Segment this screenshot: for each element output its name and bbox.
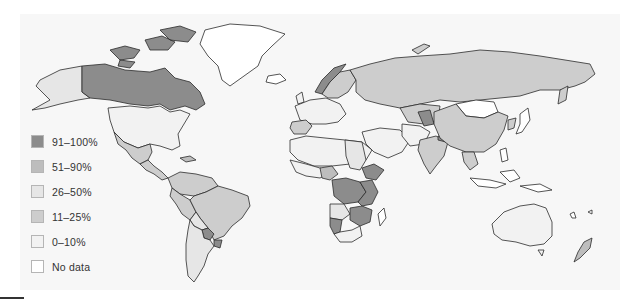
legend-swatch [31, 135, 44, 148]
region-egypt-sudan[interactable] [345, 140, 366, 170]
region-pacific-islands[interactable] [570, 210, 592, 218]
legend-item-51-90: 51–90% [31, 154, 98, 179]
region-new-zealand[interactable] [574, 238, 592, 262]
legend-swatch [31, 185, 44, 198]
region-southeast-asia[interactable] [462, 152, 478, 170]
region-canada-arctic[interactable] [110, 26, 196, 68]
region-iceland[interactable] [266, 74, 286, 84]
region-madagascar[interactable] [378, 208, 386, 226]
region-tasmania[interactable] [538, 250, 544, 256]
region-indonesia[interactable] [470, 170, 552, 192]
legend-item-11-25: 11–25% [31, 204, 98, 229]
legend-label: 51–90% [52, 161, 92, 173]
footer-rule [0, 297, 24, 299]
region-japan[interactable] [516, 108, 530, 134]
legend-item-26-50: 26–50% [31, 179, 98, 204]
region-central-america[interactable] [140, 160, 168, 180]
legend-label: 11–25% [52, 211, 91, 223]
legend-item-91-100: 91–100% [31, 129, 98, 154]
region-canada[interactable] [82, 64, 205, 110]
region-uk[interactable] [296, 92, 304, 104]
legend-label: 91–100% [52, 136, 98, 148]
region-nigeria[interactable] [320, 166, 338, 180]
legend: 91–100% 51–90% 26–50% 11–25% 0–10% No da… [31, 129, 98, 279]
region-angola[interactable] [330, 204, 350, 220]
region-philippines[interactable] [500, 148, 508, 162]
region-southeast-africa[interactable] [350, 206, 372, 226]
legend-swatch [31, 210, 44, 223]
region-australia[interactable] [492, 204, 552, 246]
legend-item-no-data: No data [31, 254, 98, 279]
legend-label: No data [52, 261, 90, 273]
legend-swatch [31, 235, 44, 248]
region-uruguay[interactable] [214, 240, 222, 248]
legend-label: 0–10% [52, 236, 86, 248]
region-alaska[interactable] [32, 66, 90, 110]
legend-swatch [31, 260, 44, 273]
legend-item-0-10: 0–10% [31, 229, 98, 254]
legend-label: 26–50% [52, 186, 92, 198]
region-ethiopia[interactable] [362, 164, 384, 180]
region-russia[interactable] [350, 50, 595, 108]
region-caribbean[interactable] [180, 156, 196, 162]
legend-swatch [31, 160, 44, 173]
region-korea[interactable] [508, 118, 516, 130]
region-arctic-island[interactable] [412, 44, 430, 54]
